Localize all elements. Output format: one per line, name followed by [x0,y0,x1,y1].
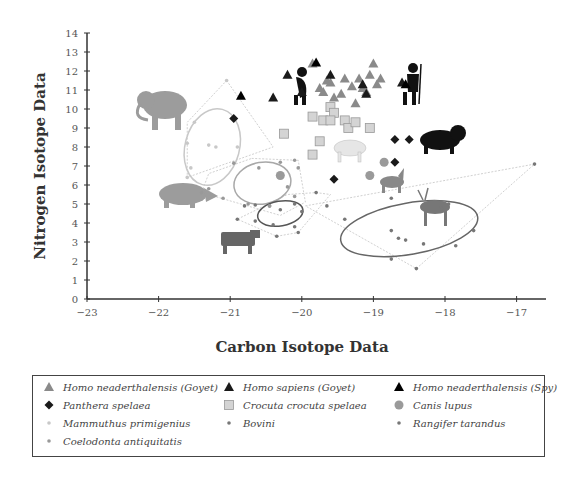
legend-item: Homo sapiens (Goyet) [223,381,355,393]
x-tick-label: −21 [220,307,241,318]
data-point [343,217,347,221]
data-point [454,244,458,248]
neanderthal-illustration [294,67,307,105]
data-point [214,145,218,149]
data-point [268,204,272,208]
dot-marker-icon [43,417,55,429]
data-point [279,208,283,212]
y-tick-label: 0 [72,294,78,305]
data-point [376,74,386,83]
x-tick-label: −17 [506,307,527,318]
x-tick-label: −19 [363,307,384,318]
data-point [193,121,197,125]
wolf-illustration [380,168,404,193]
data-point [296,231,300,235]
data-point [405,135,414,144]
triangle-marker-icon [393,381,405,393]
data-point [330,175,339,184]
data-point [447,202,451,206]
data-point [308,150,317,159]
y-tick-label: 13 [65,47,78,58]
data-point [365,171,374,180]
y-tick-label: 5 [72,199,78,210]
data-point [390,197,394,201]
woolly-rhinoceros-illustration [159,183,218,208]
y-tick-label: 10 [65,104,78,115]
data-point [336,89,346,98]
data-point [422,242,426,246]
triangle-marker-icon [43,381,55,393]
x-tick-label: −18 [434,307,455,318]
data-point [314,191,318,195]
bovine-illustration [221,230,260,254]
data-point [390,229,394,233]
data-point [279,129,288,138]
y-tick-label: 4 [72,218,78,229]
ellipse-bovini [256,197,305,229]
data-point [243,204,247,208]
dot-marker-icon [43,435,55,447]
legend-item: Canis lupus [393,399,472,411]
legend-item: Coelodonta antiquitatis [43,435,182,447]
data-point [404,238,408,242]
cave-lion-illustration [420,125,466,154]
data-point [207,187,211,191]
data-point [325,70,335,79]
data-point [380,158,389,167]
data-point [397,236,401,240]
legend-label: Panthera spelaea [63,400,150,411]
data-point [185,141,189,145]
hyena-illustration [334,140,366,162]
y-tick-label: 8 [72,142,78,153]
data-point [293,202,297,206]
data-point [279,160,283,164]
data-point [236,217,240,221]
x-tick-label: −23 [76,307,97,318]
series-mammuthus-primigenius [185,79,239,180]
data-point [246,202,250,206]
y-tick-label: 9 [72,123,78,134]
dot-marker-icon [223,417,235,429]
data-point [440,206,444,210]
dot-marker-icon [393,417,405,429]
ellipse-rangifer-tarandus [336,191,482,266]
data-point [293,195,297,199]
y-tick-label: 6 [72,180,78,191]
legend-label: Canis lupus [413,400,472,411]
data-point [368,58,378,67]
x-axis-title: Carbon Isotope Data [215,338,388,356]
legend-item: Homo neaderthalensis (Spy) [393,381,557,393]
data-point [225,79,229,83]
data-point [185,176,189,180]
data-point [221,197,225,201]
data-point [282,70,292,79]
legend-item: Crocuta crocuta spelaea [223,399,367,411]
data-point [293,159,297,163]
data-point [271,223,275,227]
data-point [300,210,304,214]
y-tick-label: 3 [72,237,78,248]
data-point [365,70,375,79]
data-point [189,166,193,170]
data-point [390,158,399,167]
legend-item: Panthera spelaea [43,399,150,411]
legend-item: Mammuthus primigenius [43,417,190,429]
legend-item: Bovini [223,417,275,429]
x-tick-label: −22 [148,307,169,318]
mammoth-illustration [137,91,187,130]
hull-bovini [237,193,330,237]
legend-label: Rangifer tarandus [413,418,505,429]
legend-item: Homo neaderthalensis (Goyet) [43,381,218,393]
y-tick-label: 14 [65,28,78,39]
circle-marker-icon [393,399,405,411]
data-point [232,161,236,165]
data-point [326,116,335,125]
data-point [253,219,257,223]
legend: Homo neaderthalensis (Goyet)Homo sapiens… [32,375,545,457]
legend-label: Coelodonta antiquitatis [63,436,182,447]
data-point [275,235,279,239]
data-point [268,93,278,102]
data-point [390,257,394,261]
data-point [308,112,317,121]
data-point [293,225,297,229]
